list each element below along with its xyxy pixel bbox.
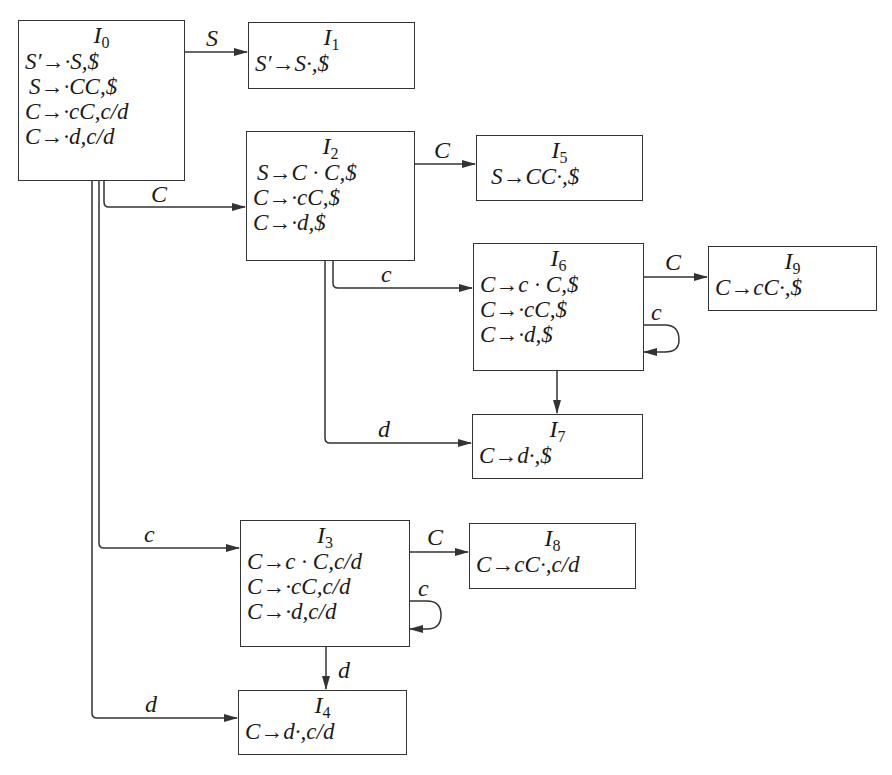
state-i4: I4 C→d·,c/d	[238, 690, 407, 755]
state-title: I6	[480, 246, 637, 272]
edge-label-i3-i8: C	[427, 525, 443, 549]
edge-i0-i4	[92, 180, 237, 718]
state-title: I4	[245, 693, 400, 719]
state-i5: I5 S→CC·,$	[476, 135, 643, 201]
state-title: I0	[25, 23, 178, 49]
lr-item: S→·CC,$	[25, 74, 178, 99]
edge-i0-i3	[99, 180, 239, 548]
edge-label-i0-i4: d	[145, 692, 157, 716]
lr-item: C→·d,c/d	[25, 124, 178, 149]
edge-label-i3-loop: c	[418, 576, 429, 600]
edge-label-i0-i1: S	[206, 26, 218, 50]
lr-item: C→·d,$	[480, 322, 637, 347]
lr-item: C→c · C,$	[480, 272, 637, 297]
edge-i6-loop	[643, 325, 679, 352]
state-i9: I9 C→cC·,$	[708, 246, 877, 311]
state-i0: I0 S′→·S,$ S→·CC,$ C→·cC,c/d C→·d,c/d	[18, 20, 185, 181]
lr-item: C→c · C,c/d	[247, 549, 403, 574]
edge-label-i3-i4: d	[338, 658, 350, 682]
lr-item: C→d·,c/d	[245, 719, 400, 744]
lr-item: C→·cC,c/d	[247, 574, 403, 599]
lr-item: C→cC·,c/d	[476, 552, 629, 577]
edge-label-i0-i3: c	[144, 522, 155, 546]
edge-label-i0-i2: C	[151, 182, 167, 206]
state-i7: I7 C→d·,$	[472, 414, 643, 479]
lr-item: C→·cC,$	[480, 297, 637, 322]
state-i3: I3 C→c · C,c/d C→·cC,c/d C→·d,c/d	[240, 520, 410, 647]
edge-label-i2-i7: d	[378, 417, 390, 441]
lr-item: C→·cC,$	[253, 185, 408, 210]
state-title: I1	[255, 25, 408, 51]
edge-label-i2-i6: c	[381, 262, 392, 286]
lr-item: C→·d,c/d	[247, 599, 403, 624]
edge-i3-loop	[409, 601, 441, 629]
state-i2: I2 S→C · C,$ C→·cC,$ C→·d,$	[246, 131, 415, 261]
lr-item: S→C · C,$	[253, 160, 408, 185]
edge-label-i6-loop: c	[651, 300, 662, 324]
state-i8: I8 C→cC·,c/d	[469, 523, 636, 589]
lr-item: C→·cC,c/d	[25, 99, 178, 124]
state-i1: I1 S′→S·,$	[248, 22, 415, 89]
lr-item: S→CC·,$	[483, 164, 636, 189]
state-title: I5	[483, 138, 636, 164]
edge-i2-i6	[333, 260, 472, 288]
state-title: I8	[476, 526, 629, 552]
lr-item: C→d·,$	[479, 443, 636, 468]
edge-label-i2-i5: C	[434, 138, 450, 162]
state-title: I9	[715, 249, 870, 275]
state-i6: I6 C→c · C,$ C→·cC,$ C→·d,$	[473, 243, 644, 371]
lr-item: S′→·S,$	[25, 49, 178, 74]
edge-label-i6-i9: C	[665, 250, 681, 274]
lr-item: S′→S·,$	[255, 51, 408, 76]
state-title: I3	[247, 523, 403, 549]
state-title: I2	[253, 134, 408, 160]
state-title: I7	[479, 417, 636, 443]
lr-item: C→cC·,$	[715, 275, 870, 300]
lr-item: C→·d,$	[253, 210, 408, 235]
edge-i0-i2	[104, 180, 245, 207]
